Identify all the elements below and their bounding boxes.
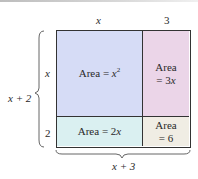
area-rectangle: Area = x2 Area= 3x Area = 2x Area= 6 <box>56 30 191 148</box>
cell-d-text: Area= 6 <box>155 119 176 145</box>
bottom-label-total: x + 3 <box>112 160 135 172</box>
cell-area-6: Area= 6 <box>143 117 189 146</box>
cell-area-2x: Area = 2x <box>57 117 143 146</box>
cell-b-text: Area= 3x <box>155 61 176 87</box>
cell-area-x-squared: Area = x2 <box>57 31 143 117</box>
cell-a-text: Area = x2 <box>79 67 120 80</box>
top-label-3: 3 <box>164 14 170 26</box>
side-label-total: x + 2 <box>8 92 31 104</box>
top-rule <box>0 0 198 2</box>
left-brace-icon <box>34 30 46 150</box>
cell-area-3x: Area= 3x <box>143 31 189 117</box>
bottom-brace-icon <box>55 149 192 159</box>
top-label-x: x <box>96 14 101 26</box>
cell-c-text: Area = 2x <box>78 125 121 138</box>
